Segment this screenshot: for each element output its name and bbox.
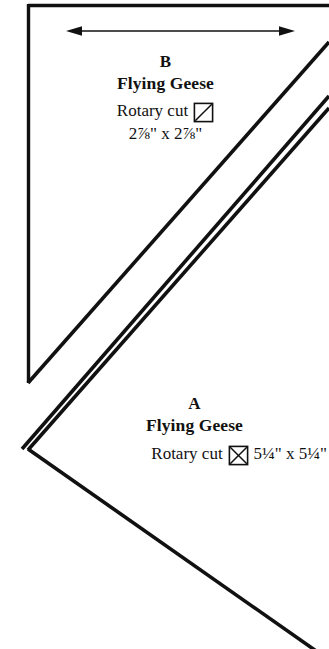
cut-label-a: Rotary cut xyxy=(151,443,222,465)
label-layer: B Flying Geese Rotary cut 2⅞" x 2⅞" A Fl… xyxy=(0,0,329,649)
piece-name-b: Flying Geese xyxy=(38,72,293,94)
cut-dimensions-b: 2⅞" x 2⅞" xyxy=(38,123,293,145)
piece-letter-a: A xyxy=(60,394,329,414)
square-double-diagonal-icon xyxy=(228,445,249,466)
cutting-diagram-page: B Flying Geese Rotary cut 2⅞" x 2⅞" A Fl… xyxy=(0,0,329,649)
cut-label-b: Rotary cut xyxy=(117,100,188,122)
cut-instruction-b: Rotary cut xyxy=(38,100,293,122)
cut-dimensions-a: 5¼" x 5¼" xyxy=(254,443,327,465)
square-single-diagonal-icon xyxy=(193,102,214,123)
piece-name-a: Flying Geese xyxy=(60,414,329,436)
piece-letter-b: B xyxy=(38,52,293,72)
piece-label-a: A Flying Geese Rotary cut 5¼" x 5¼" xyxy=(60,394,329,465)
cut-instruction-a: Rotary cut 5¼" x 5¼" xyxy=(60,443,329,465)
piece-label-b: B Flying Geese Rotary cut 2⅞" x 2⅞" xyxy=(38,52,293,145)
